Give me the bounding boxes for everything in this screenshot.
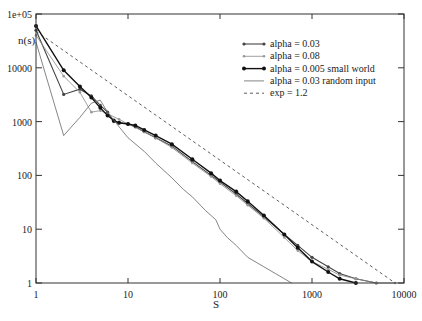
data-point — [246, 204, 249, 207]
data-point — [219, 182, 222, 185]
data-point — [326, 270, 330, 274]
data-point — [210, 175, 213, 178]
data-point — [79, 91, 82, 94]
data-point — [338, 274, 341, 277]
series-line — [36, 42, 292, 283]
y-tick-label: 10 — [22, 224, 32, 235]
log-log-plot: 1101001000100001101001000100001e+05 n(s)… — [0, 0, 422, 321]
data-point — [310, 256, 313, 259]
series-3 — [36, 42, 292, 283]
data-point — [234, 190, 238, 194]
y-tick-label: 1000 — [12, 117, 32, 128]
x-axis-label: S — [213, 298, 219, 310]
data-point — [62, 93, 65, 96]
data-point — [283, 236, 286, 239]
legend-marker — [242, 42, 245, 45]
data-point — [209, 171, 213, 175]
x-tick-label: 1000 — [302, 289, 322, 300]
legend-marker — [262, 42, 265, 45]
data-point — [78, 84, 82, 88]
data-point — [117, 121, 121, 125]
legend-label: exp = 1.2 — [270, 87, 308, 98]
chart-container: 1101001000100001101001000100001e+05 n(s)… — [0, 0, 422, 321]
data-point — [142, 128, 146, 132]
data-point — [170, 142, 174, 146]
y-tick-label: 1 — [27, 278, 32, 289]
data-point — [282, 232, 286, 236]
legend-marker — [242, 67, 246, 71]
data-point — [327, 265, 330, 268]
data-point — [246, 199, 250, 203]
legend-marker — [262, 67, 266, 71]
legend-label: alpha = 0.005 small world — [270, 63, 375, 74]
data-point — [62, 68, 66, 72]
data-point — [191, 162, 194, 165]
y-tick-label: 100 — [17, 170, 32, 181]
data-point — [118, 118, 121, 121]
data-point — [171, 146, 174, 149]
data-point — [296, 246, 300, 250]
data-point — [310, 260, 314, 264]
data-point — [90, 111, 93, 114]
legend-marker — [243, 55, 246, 58]
data-point — [190, 157, 194, 161]
data-point — [98, 106, 102, 110]
y-tick-label: 1e+05 — [7, 9, 32, 20]
data-point — [218, 179, 222, 183]
data-point — [262, 213, 266, 217]
legend-label: alpha = 0.03 random input — [270, 75, 376, 86]
plot-frame — [36, 14, 404, 283]
y-axis-label: n(s) — [18, 34, 35, 47]
y-tick-label: 10000 — [7, 63, 32, 74]
data-point — [338, 277, 342, 281]
data-point — [133, 123, 137, 127]
legend-marker — [263, 55, 266, 58]
x-tick-label: 1 — [34, 289, 39, 300]
axis-ticks: 1101001000100001101001000100001e+05 — [7, 9, 417, 300]
data-point — [62, 75, 65, 78]
data-point — [89, 96, 93, 100]
data-point — [355, 277, 358, 280]
legend: alpha = 0.03alpha = 0.08alpha = 0.005 sm… — [242, 38, 376, 98]
x-tick-label: 10 — [123, 289, 133, 300]
data-point — [154, 134, 158, 138]
legend-label: alpha = 0.08 — [270, 50, 320, 61]
legend-label: alpha = 0.03 — [270, 38, 320, 49]
data-point — [126, 122, 130, 126]
x-tick-label: 10000 — [392, 289, 417, 300]
data-point — [235, 194, 238, 197]
